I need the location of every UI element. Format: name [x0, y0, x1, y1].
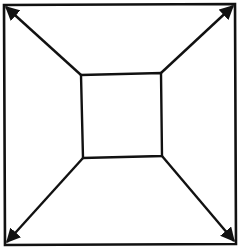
inner-square	[81, 73, 162, 158]
nested-squares-diagram	[0, 0, 241, 251]
outer-square	[4, 4, 236, 245]
arrow-top-right-icon	[161, 6, 233, 73]
arrow-bottom-right-icon	[162, 156, 234, 241]
arrow-top-left-icon	[6, 7, 81, 75]
diagonal-arrows	[6, 6, 234, 242]
arrow-bottom-left-icon	[7, 158, 83, 242]
